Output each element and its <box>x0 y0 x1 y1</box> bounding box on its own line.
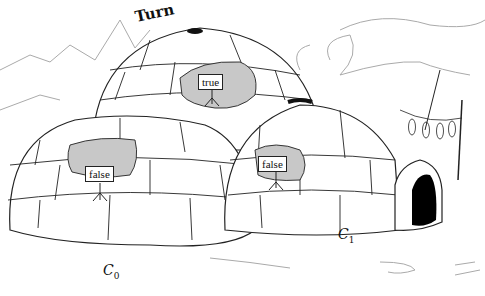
caption-c1: C1 <box>338 226 354 245</box>
door-icon <box>412 175 436 226</box>
igloo-c0 <box>8 116 255 246</box>
igloo-diagram: Turn true false false C0 C1 <box>0 0 485 296</box>
flag-c0: false <box>85 166 114 182</box>
flag-top: true <box>198 74 223 90</box>
caption-c0: C0 <box>103 262 119 281</box>
flag-c1: false <box>258 156 287 172</box>
igloo-illustration <box>0 0 485 296</box>
fish-drying-line <box>400 70 462 180</box>
